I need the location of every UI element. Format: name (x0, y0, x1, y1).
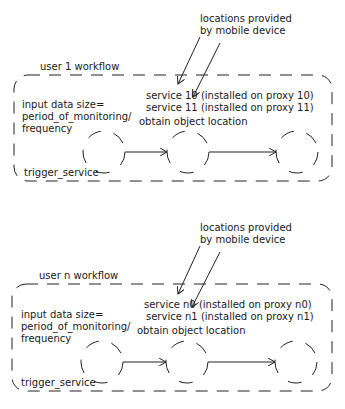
service-line-1: service n0 (installed on proxy n0) (144, 299, 312, 310)
annotation-line-2: by mobile device (200, 25, 285, 36)
input-label-line-2: period_of_monitoring/ (22, 111, 132, 123)
service-line-2: service 11 (installed on proxy 11) (146, 102, 314, 113)
step-label: obtain object location (137, 325, 245, 336)
input-label-line-1: input data size= (22, 99, 104, 110)
workflow-title: user 1 workflow (40, 61, 119, 72)
workflow-title: user n workflow (39, 270, 118, 281)
annotation-arrow-2 (193, 43, 220, 97)
annotation-arrow-1 (178, 37, 200, 84)
annotation-line-1: locations provided (200, 222, 292, 233)
annotation-arrow-1 (178, 246, 200, 294)
trigger-label: trigger_service (24, 167, 99, 179)
obtain-location-node (167, 131, 209, 173)
input-label-line-2: period_of_monitoring/ (21, 321, 131, 333)
obtain-location-node (166, 341, 208, 383)
input-label-line-3: frequency (21, 333, 71, 344)
workflow-user-1: locations provided by mobile device user… (14, 13, 332, 181)
workflow-user-n: locations provided by mobile device user… (12, 222, 332, 391)
annotation-line-2: by mobile device (200, 234, 285, 245)
annotation-line-1: locations provided (200, 13, 292, 24)
service-line-1: service 10 (installed on proxy 10) (146, 90, 314, 101)
service-line-2: service n1 (installed on proxy n1) (146, 311, 314, 322)
trigger-label: trigger_service (21, 377, 96, 389)
end-node (276, 131, 318, 173)
input-label-line-1: input data size= (21, 309, 103, 320)
workflow-diagram: locations provided by mobile device user… (0, 0, 345, 409)
end-node (275, 341, 317, 383)
input-label-line-3: frequency (22, 123, 72, 134)
step-label: obtain object location (139, 116, 247, 127)
